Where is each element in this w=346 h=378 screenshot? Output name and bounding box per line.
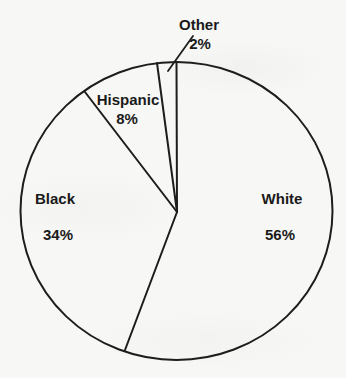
slice-pct-hispanic: 8% [116, 110, 138, 127]
slice-label-white: White [262, 190, 303, 207]
slice-pct-other: 2% [189, 35, 211, 52]
slice-label-hispanic: Hispanic [97, 91, 160, 108]
slice-label-other: Other [179, 16, 219, 33]
slice-pct-white: 56% [265, 226, 295, 243]
pie-chart-figure: Other 2% Hispanic 8% Black 34% White 56% [0, 0, 346, 378]
slice-boundary-white-other [177, 62, 178, 212]
slice-pct-black: 34% [43, 226, 73, 243]
slice-boundary-black-white [125, 212, 177, 350]
slice-label-black: Black [35, 190, 76, 207]
pie-chart-canvas: Other 2% Hispanic 8% Black 34% White 56% [0, 0, 346, 378]
